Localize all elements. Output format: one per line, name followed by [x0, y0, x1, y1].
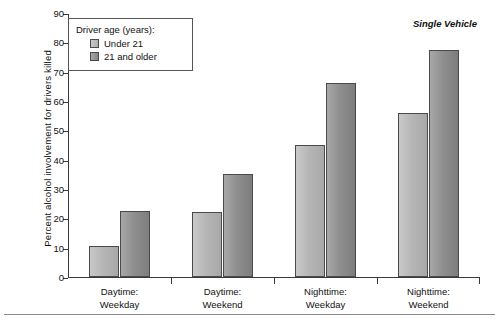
bar	[120, 211, 150, 277]
x-axis-label-line: Weekend	[171, 299, 274, 312]
bar	[398, 113, 428, 277]
x-separator-tick	[377, 278, 378, 284]
legend-swatch-icon-21-and-older	[90, 52, 99, 61]
legend-title: Driver age (years):	[76, 24, 185, 35]
bar	[223, 174, 253, 277]
x-axis-label-line: Daytime:	[68, 286, 171, 299]
y-tick-label: 30	[53, 183, 64, 196]
y-tick-label: 50	[53, 124, 64, 137]
y-tick-label: 60	[53, 95, 64, 108]
x-axis-group-label: Nighttime:Weekday	[274, 286, 377, 311]
y-tick-label: 70	[53, 66, 64, 79]
x-axis-label-line: Weekend	[377, 299, 480, 312]
x-separator-tick	[171, 278, 172, 284]
y-tick-label: 80	[53, 36, 64, 49]
y-tick-label: 40	[53, 154, 64, 167]
bar	[192, 212, 222, 277]
x-axis-group-label: Daytime:Weekday	[68, 286, 171, 311]
y-tick-label: 20	[53, 212, 64, 225]
legend-label-21-and-older: 21 and older	[104, 51, 157, 62]
x-axis-group-label: Nighttime:Weekend	[377, 286, 480, 311]
legend-item-under-21: Under 21	[90, 38, 185, 49]
legend-swatch-icon-under-21	[90, 39, 99, 48]
bar-chart: Percent alcohol involvement for drivers …	[0, 0, 499, 327]
bar	[429, 50, 459, 277]
x-axis-label-line: Weekday	[68, 299, 171, 312]
x-axis-end-tick	[479, 278, 480, 284]
footer-divider	[4, 314, 495, 315]
x-axis-group-label: Daytime:Weekend	[171, 286, 274, 311]
x-axis-label-line: Nighttime:	[377, 286, 480, 299]
bar	[295, 145, 325, 277]
bar	[89, 246, 119, 277]
x-axis-label-line: Nighttime:	[274, 286, 377, 299]
y-tick-label: 10	[53, 242, 64, 255]
x-axis-label-line: Weekday	[274, 299, 377, 312]
x-axis-label-line: Daytime:	[171, 286, 274, 299]
bar	[326, 83, 356, 277]
x-separator-tick	[274, 278, 275, 284]
legend-label-under-21: Under 21	[104, 38, 143, 49]
legend-item-21-and-older: 21 and older	[90, 51, 185, 62]
y-tick-label: 0	[59, 271, 64, 284]
y-axis-title: Percent alcohol involvement for drivers …	[42, 24, 53, 274]
y-tick-label: 90	[53, 7, 64, 20]
legend: Driver age (years): Under 21 21 and olde…	[68, 18, 193, 71]
chart-annotation: Single Vehicle	[413, 18, 477, 29]
